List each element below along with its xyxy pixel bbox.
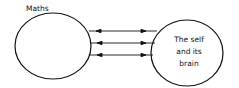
self-brain-line-2: and its bbox=[164, 46, 214, 58]
arrow-1 bbox=[89, 29, 157, 32]
self-brain-line-3: brain bbox=[164, 58, 214, 70]
maths-node bbox=[15, 13, 91, 79]
arrow-2 bbox=[90, 41, 155, 44]
self-brain-line-1: The self bbox=[164, 34, 214, 46]
maths-label: Maths bbox=[26, 3, 49, 14]
self-brain-label: The self and its brain bbox=[164, 34, 214, 70]
arrow-3 bbox=[90, 53, 153, 56]
connection-arrows bbox=[89, 29, 157, 56]
